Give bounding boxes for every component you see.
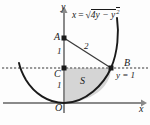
x-axis-label: x [139, 104, 143, 114]
point-label-A: A [54, 32, 60, 42]
point-C-marker [62, 66, 67, 71]
point-A-marker [62, 36, 67, 41]
equation-lhs: x [72, 10, 76, 20]
radical-sign: √ [86, 10, 91, 20]
region-label-S: S [80, 76, 85, 86]
equation-radicand: 4y − y [91, 9, 116, 20]
length-label-upper-unit: 1 [57, 47, 62, 56]
length-label-radius: 2 [84, 42, 89, 51]
math-figure: y x A B C O S 1 1 2 y = 1 x=√4y − y2 [0, 0, 150, 125]
equation-equals: = [78, 10, 83, 20]
point-label-O: O [55, 103, 62, 113]
curve-equation-label: x=√4y − y2 [72, 8, 120, 20]
y-axis-label: y [61, 2, 65, 12]
point-label-B: B [124, 58, 130, 68]
line-label-y-equals-1: y = 1 [116, 70, 135, 80]
length-label-lower-unit: 1 [57, 81, 62, 90]
shaded-region-S [64, 68, 111, 103]
point-label-C: C [54, 69, 61, 79]
equation-radicand-exponent: 2 [116, 7, 120, 15]
point-B-marker [109, 66, 114, 71]
